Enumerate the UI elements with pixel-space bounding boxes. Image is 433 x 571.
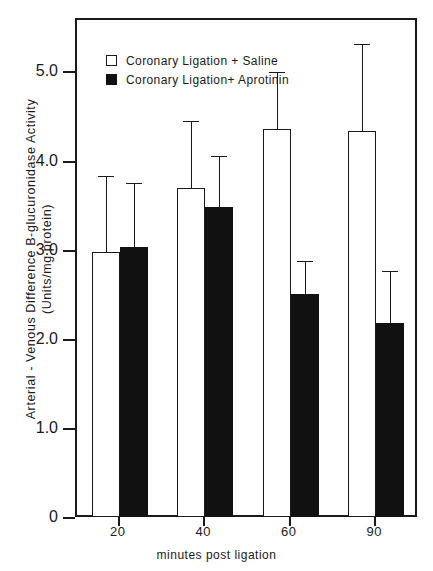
bar-60-saline	[263, 129, 291, 517]
legend-label-aprotinin: Coronary Ligation+ Aprotinin	[126, 73, 289, 87]
error-bar-cap	[382, 271, 398, 272]
y-tick-label: 1.0	[0, 419, 58, 437]
y-tick-label: 0	[0, 508, 58, 526]
bar-60-aprotinin	[291, 294, 319, 517]
error-bar-cap	[126, 183, 142, 184]
x-tick-label: 90	[367, 524, 382, 539]
y-tick-mark	[63, 517, 75, 519]
bar-90-saline	[348, 131, 376, 517]
y-tick-mark	[63, 250, 75, 252]
bar-90-aprotinin	[376, 323, 404, 517]
y-tick-mark	[63, 71, 75, 73]
y-tick-label: 3.0	[0, 241, 58, 259]
legend-item-saline: Coronary Ligation + Saline	[106, 52, 289, 69]
error-bar-line	[390, 271, 391, 323]
error-bar-cap	[354, 44, 370, 45]
error-bar-line	[305, 261, 306, 295]
plot-area	[75, 18, 417, 517]
error-bar-line	[219, 156, 220, 207]
error-bar-line	[106, 176, 107, 252]
x-tick-label: 20	[110, 524, 125, 539]
legend-swatch-open-icon	[106, 55, 117, 66]
chart-figure: Arterial - Venous Difference B-glucuroni…	[0, 0, 433, 571]
bar-20-aprotinin	[120, 247, 148, 517]
x-tick-label: 40	[196, 524, 211, 539]
bar-40-aprotinin	[205, 207, 233, 517]
error-bar-cap	[297, 261, 313, 262]
error-bar-line	[362, 44, 363, 131]
error-bar-cap	[183, 121, 199, 122]
x-tick-label: 60	[281, 524, 296, 539]
bar-20-saline	[92, 252, 120, 517]
y-tick-mark	[63, 161, 75, 163]
y-tick-label: 4.0	[0, 152, 58, 170]
error-bar-line	[134, 183, 135, 247]
error-bar-cap	[98, 176, 114, 177]
legend-label-saline: Coronary Ligation + Saline	[126, 54, 278, 68]
y-tick-label: 5.0	[0, 62, 58, 80]
y-tick-label: 2.0	[0, 330, 58, 348]
x-axis-title: minutes post ligation	[0, 548, 433, 562]
error-bar-cap	[211, 156, 227, 157]
y-tick-mark	[63, 339, 75, 341]
y-tick-mark	[63, 428, 75, 430]
legend-swatch-filled-icon	[106, 74, 117, 85]
error-bar-line	[191, 121, 192, 188]
bar-40-saline	[177, 188, 205, 517]
legend-item-aprotinin: Coronary Ligation+ Aprotinin	[106, 71, 289, 88]
chart-legend: Coronary Ligation + Saline Coronary Liga…	[106, 52, 289, 90]
